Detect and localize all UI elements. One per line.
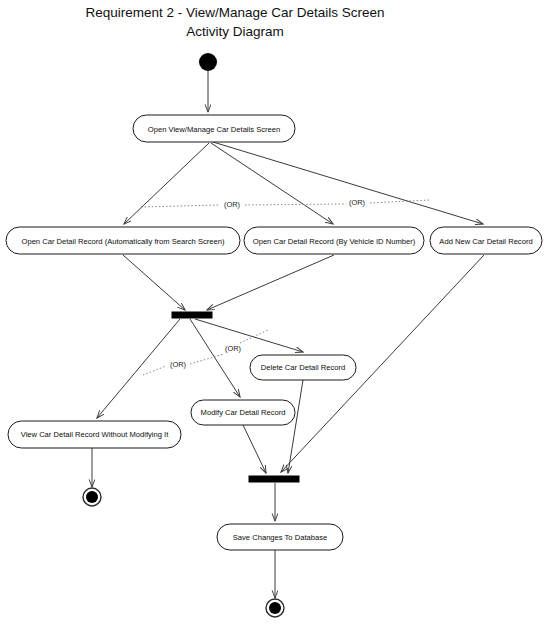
or-label-1: (OR) [349, 198, 365, 207]
node-save-changes-to-database[interactable]: Save Changes To Database [217, 524, 343, 550]
initial-node[interactable] [199, 53, 217, 71]
edge-merge-to-delete [195, 319, 303, 352]
node-add-new-car-detail-record[interactable]: Add New Car Detail Record [430, 227, 542, 254]
edge-merge-to-view-only [97, 319, 180, 418]
or-dotted-upper-right [370, 200, 430, 203]
or-dotted-lower-mid [190, 354, 224, 364]
or-dotted-upper-mid [245, 204, 344, 205]
diagram-title-line-2: Activity Diagram [186, 24, 284, 39]
final-node-left[interactable] [83, 488, 101, 506]
node-view-car-detail-record-without-modifying[interactable]: View Car Detail Record Without Modifying… [8, 421, 181, 448]
node-label: Add New Car Detail Record [439, 237, 532, 246]
node-open-car-detail-record-automatically[interactable]: Open Car Detail Record (Automatically fr… [6, 227, 240, 254]
edge-open-auto-to-merge [123, 255, 185, 310]
edge-open-screen-to-open-auto [124, 143, 209, 224]
activity-diagram-canvas: Requirement 2 - View/Manage Car Details … [0, 0, 546, 630]
or-dotted-lower-right [240, 330, 268, 343]
node-label: Save Changes To Database [233, 533, 327, 542]
join-bar[interactable] [249, 476, 299, 482]
edge-modify-to-join [243, 425, 266, 473]
node-label: View Car Detail Record Without Modifying… [21, 430, 169, 439]
merge-bar[interactable] [172, 312, 212, 318]
or-dotted-lower-left [143, 366, 166, 375]
node-label: Open Car Detail Record (Automatically fr… [22, 237, 225, 246]
node-label: Open View/Manage Car Details Screen [148, 125, 280, 134]
node-open-view-manage-car-details-screen[interactable]: Open View/Manage Car Details Screen [133, 115, 295, 142]
final-node-bottom[interactable] [266, 599, 284, 617]
node-label: Delete Car Detail Record [261, 363, 345, 372]
edge-layer [92, 71, 484, 598]
edge-open-vin-to-merge [207, 255, 334, 310]
or-dotted-upper-left [141, 205, 219, 207]
node-label: Open Car Detail Record (By Vehicle ID Nu… [253, 237, 416, 246]
or-label-0: (OR) [224, 200, 240, 209]
edge-open-screen-to-open-vin [211, 143, 333, 224]
node-delete-car-detail-record[interactable]: Delete Car Detail Record [250, 355, 356, 380]
or-label-3: (OR) [225, 344, 241, 353]
node-open-car-detail-record-by-vehicle-id[interactable]: Open Car Detail Record (By Vehicle ID Nu… [244, 227, 424, 254]
diagram-title-line-1: Requirement 2 - View/Manage Car Details … [85, 5, 384, 20]
edge-open-screen-to-add-new [213, 142, 483, 224]
node-label: Modify Car Detail Record [201, 408, 286, 417]
or-connector-layer [141, 200, 430, 375]
or-label-2: (OR) [170, 360, 186, 369]
node-modify-car-detail-record[interactable]: Modify Car Detail Record [191, 400, 295, 425]
edge-delete-to-join [288, 380, 303, 473]
